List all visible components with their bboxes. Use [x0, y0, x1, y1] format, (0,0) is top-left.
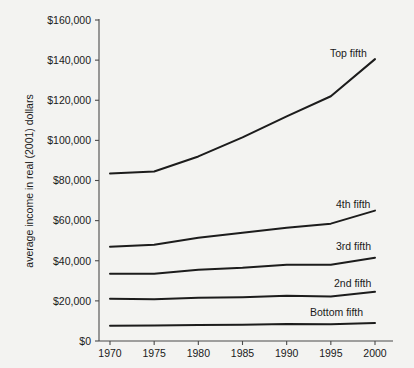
- series-label-top-fifth: Top fifth: [330, 47, 367, 59]
- y-axis-title: average income in real (2001) dollars: [23, 94, 35, 267]
- y-tick-label: $40,000: [53, 255, 91, 267]
- y-axis: $0$20,000$40,000$60,000$80,000$100,000$1…: [47, 14, 99, 347]
- x-tick-label: 2000: [363, 347, 387, 359]
- series-line-3rd-fifth: [110, 258, 375, 274]
- series-line-2nd-fifth: [110, 292, 375, 299]
- chart-canvas: $0$20,000$40,000$60,000$80,000$100,000$1…: [0, 0, 414, 368]
- y-tick-label: $60,000: [53, 214, 91, 226]
- x-tick-label: 1980: [187, 347, 211, 359]
- series-line-top-fifth: [110, 59, 375, 173]
- y-axis-title-text: average income in real (2001) dollars: [23, 94, 35, 267]
- x-tick-label: 1985: [231, 347, 255, 359]
- y-tick-label: $120,000: [47, 94, 91, 106]
- series-label-4th-fifth: 4th fifth: [336, 198, 371, 210]
- y-tick-label: $0: [79, 335, 91, 347]
- x-tick-label: 1975: [142, 347, 166, 359]
- y-tick-label: $80,000: [53, 174, 91, 186]
- y-tick-label: $140,000: [47, 54, 91, 66]
- x-tick-label: 1995: [319, 347, 343, 359]
- series-label-bottom-fifth: Bottom fifth: [310, 306, 363, 318]
- x-tick-label: 1990: [275, 347, 299, 359]
- y-tick-label: $20,000: [53, 295, 91, 307]
- y-tick-label: $100,000: [47, 134, 91, 146]
- series-label-2nd-fifth: 2nd fifth: [334, 277, 372, 289]
- y-tick-label: $160,000: [47, 14, 91, 26]
- x-tick-label: 1970: [98, 347, 122, 359]
- series-line-bottom-fifth: [110, 323, 375, 326]
- x-axis: 1970197519801985199019952000: [98, 341, 393, 359]
- series-label-3rd-fifth: 3rd fifth: [336, 240, 371, 252]
- income-quintile-line-chart: $0$20,000$40,000$60,000$80,000$100,000$1…: [0, 0, 414, 368]
